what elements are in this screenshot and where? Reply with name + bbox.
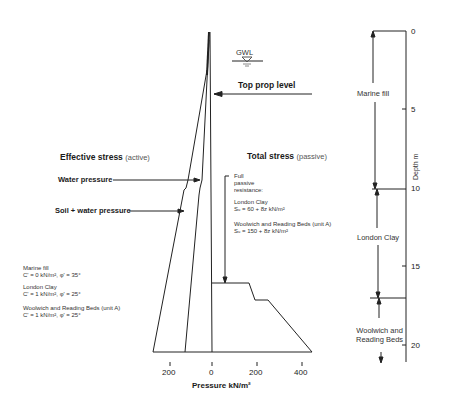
soil-water-pressure-label: Soil + water pressure bbox=[55, 206, 131, 215]
stratum-london-clay: London Clay bbox=[357, 233, 399, 242]
wrb-name: Woolwich and Reading Beds (unit A) bbox=[234, 221, 331, 228]
passive-pressure-line bbox=[212, 283, 312, 352]
depth-tick-10: 10 bbox=[411, 184, 420, 193]
wrb-params: C' = 1 kN/m², φ' = 25° bbox=[23, 312, 120, 319]
active-label: (active) bbox=[125, 153, 150, 162]
gwl-label: GWL bbox=[236, 48, 253, 57]
stratum-woolwich-reading: Woolwich and Reading Beds bbox=[356, 326, 403, 344]
stratum-wrb-line2: Reading Beds bbox=[356, 335, 403, 344]
effective-stress-heading: Effective stress (active) bbox=[60, 152, 150, 162]
depth-tick-5: 5 bbox=[411, 105, 415, 114]
depth-tick-20: 20 bbox=[411, 341, 420, 350]
pressure-diagram bbox=[0, 0, 451, 410]
x-tick-200-left: 200 bbox=[162, 368, 175, 377]
x-axis-label: Pressure kN/m² bbox=[192, 381, 251, 390]
top-prop-label: Top prop level bbox=[238, 80, 295, 90]
water-pressure-label: Water pressure bbox=[58, 175, 112, 184]
wrb-name2: Woolwich and Reading Beds (unit A) bbox=[23, 305, 120, 312]
full-passive-text: Full passive resistance: bbox=[234, 173, 263, 194]
mf-active-params: Marine fill C' = 0 kN/m², φ' = 35° bbox=[23, 265, 81, 279]
mf-name: Marine fill bbox=[23, 265, 81, 272]
lc-active-params: London Clay C' = 1 kN/m², φ' = 25° bbox=[23, 284, 81, 298]
passive-word-label: passive bbox=[234, 180, 263, 187]
full-label: Full bbox=[234, 173, 263, 180]
wrb-su: Sᵤ = 150 + 8z kN/m² bbox=[234, 228, 331, 235]
stratum-marine-fill: Marine fill bbox=[357, 89, 389, 98]
passive-label: (passive) bbox=[296, 152, 326, 161]
lc-passive-params: London Clay Sᵤ = 60 + 8z kN/m² bbox=[234, 199, 285, 213]
lc-params: C' = 1 kN/m², φ' = 25° bbox=[23, 291, 81, 298]
stratum-wrb-line1: Woolwich and bbox=[356, 326, 403, 335]
lc-name2: London Clay bbox=[23, 284, 81, 291]
depth-tick-15: 15 bbox=[411, 262, 420, 271]
x-tick-0: 0 bbox=[209, 368, 213, 377]
mf-params: C' = 0 kN/m², φ' = 35° bbox=[23, 272, 81, 279]
resistance-label: resistance: bbox=[234, 187, 263, 194]
depth-tick-0: 0 bbox=[411, 27, 415, 36]
wall-line bbox=[210, 32, 212, 352]
water-pressure-line bbox=[185, 40, 209, 352]
depth-axis-label: Depth m bbox=[412, 154, 419, 180]
wrb-active-params: Woolwich and Reading Beds (unit A) C' = … bbox=[23, 305, 120, 319]
wrb-passive-params: Woolwich and Reading Beds (unit A) Sᵤ = … bbox=[234, 221, 331, 235]
effective-stress-label: Effective stress bbox=[60, 152, 123, 162]
lc-name: London Clay bbox=[234, 199, 285, 206]
x-tick-200-right: 200 bbox=[249, 368, 262, 377]
total-stress-label: Total stress bbox=[247, 151, 294, 161]
total-stress-heading: Total stress (passive) bbox=[247, 151, 327, 161]
lc-su: Sᵤ = 60 + 8z kN/m² bbox=[234, 206, 285, 213]
x-tick-400: 400 bbox=[294, 368, 307, 377]
